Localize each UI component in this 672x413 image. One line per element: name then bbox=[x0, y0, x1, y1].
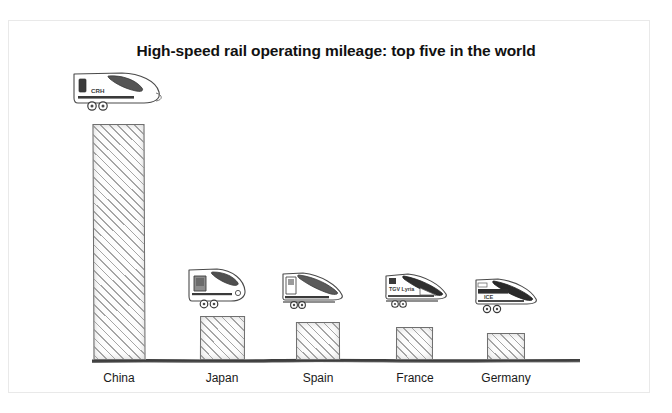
train-crh-icon: CRH bbox=[66, 66, 166, 112]
train-ave-icon bbox=[277, 264, 347, 314]
train-tgv-icon: TGV Lyria bbox=[380, 264, 452, 314]
bar-japan bbox=[200, 316, 245, 360]
category-label-china: China bbox=[79, 371, 159, 385]
category-label-france: France bbox=[375, 371, 455, 385]
train-mark-china: CRH bbox=[91, 87, 105, 94]
bar-spain bbox=[296, 322, 340, 360]
train-mark-france: TGV Lyria bbox=[389, 286, 415, 292]
train-mark-germany: ICE bbox=[484, 294, 494, 300]
chart-canvas: High-speed rail operating mileage: top f… bbox=[0, 0, 672, 413]
plot-area: CRH bbox=[0, 0, 672, 413]
train-ice-icon: ICE bbox=[470, 270, 542, 318]
category-label-germany: Germany bbox=[466, 371, 546, 385]
bar-germany bbox=[487, 333, 525, 360]
bar-france bbox=[396, 327, 433, 360]
category-label-japan: Japan bbox=[182, 371, 262, 385]
category-label-spain: Spain bbox=[278, 371, 358, 385]
train-shinkansen-icon bbox=[183, 262, 251, 314]
bar-china bbox=[92, 124, 145, 360]
